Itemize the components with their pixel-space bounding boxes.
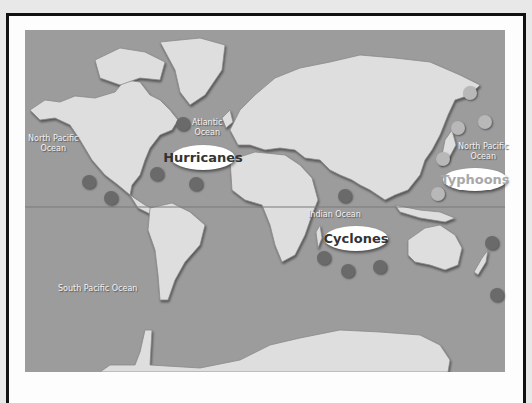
hurricane-marker: [176, 117, 190, 131]
ocean-label-south-pacific: South Pacific Ocean: [58, 284, 137, 294]
hurricanes-label: Hurricanes: [171, 145, 235, 170]
typhoon-marker: [451, 121, 465, 135]
hurricane-marker: [104, 191, 118, 205]
ocean-label-indian: Indian Ocean: [308, 210, 361, 220]
land-arctic-islands: [95, 48, 165, 85]
hurricane-marker: [82, 175, 96, 189]
land-greenland: [160, 38, 225, 105]
cyclone-marker: [317, 251, 331, 265]
cyclone-marker: [341, 264, 355, 278]
land-australia: [408, 225, 462, 270]
typhoon-marker: [431, 187, 445, 201]
ocean-label-north-pacific-east: North Pacific Ocean: [458, 142, 508, 162]
continents-layer: [25, 30, 505, 372]
ocean-label-atlantic: Atlantic Ocean: [192, 118, 222, 138]
typhoons-label: Typhoons: [443, 168, 507, 191]
hurricane-marker: [189, 177, 203, 191]
land-antarctica: [100, 330, 450, 372]
typhoon-marker: [463, 86, 477, 100]
land-new-zealand: [474, 250, 488, 275]
typhoon-marker: [478, 115, 492, 129]
land-madagascar: [316, 225, 322, 248]
hurricane-marker: [150, 167, 164, 181]
cyclone-marker: [338, 189, 352, 203]
cyclone-marker: [490, 288, 504, 302]
cyclones-label: Cyclones: [324, 226, 388, 251]
cyclone-marker: [485, 236, 499, 250]
land-uk: [222, 110, 233, 128]
cyclone-marker: [373, 260, 387, 274]
land-south-america: [148, 203, 205, 300]
ocean-label-north-pacific-west: North Pacific Ocean: [28, 134, 78, 154]
typhoon-marker: [436, 152, 450, 166]
land-indonesia: [395, 205, 455, 222]
world-map: [25, 30, 505, 372]
